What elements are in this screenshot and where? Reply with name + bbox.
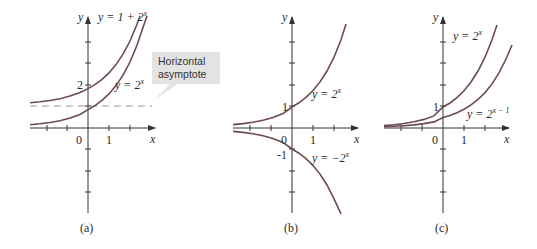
x-axis-label: x	[149, 132, 156, 146]
panel-label-c: (c)	[435, 221, 448, 235]
x-tick-1: 1	[310, 133, 316, 147]
x-tick-0: 0	[76, 133, 82, 147]
curve-2x	[233, 24, 346, 125]
x-tick-1: 1	[106, 133, 112, 147]
y-tick-1: 1	[433, 100, 439, 114]
x-tick-0: 0	[281, 133, 287, 147]
series-label-2x: y = 2x	[114, 77, 144, 92]
y-axis-label: y	[77, 10, 84, 24]
series-label-2x-minus-1: y = 2x − 1	[466, 106, 509, 121]
series-label-2x: y = 2x	[452, 28, 482, 43]
y-axis-label: y	[432, 10, 439, 24]
y-axis-label: y	[281, 10, 288, 24]
series-label-neg-2x: y = −2x	[311, 150, 350, 165]
series-label-1-plus-2x: y = 1 + 2x	[97, 9, 148, 24]
panel-c: y x 0 1 1 y = 2x y = 2x − 1 (c)	[384, 10, 512, 235]
asymptote-callout: Horizontal asymptote	[152, 52, 220, 100]
series-label-2x: y = 2x	[311, 86, 341, 101]
panel-b: y x 0 1 1 -1 y = 2x y = −2x (b)	[233, 10, 360, 235]
callout-line-2: asymptote	[158, 68, 207, 80]
y-tick-neg-1: -1	[277, 148, 287, 162]
callout-line-1: Horizontal	[158, 55, 205, 67]
y-tick-2: 2	[77, 78, 83, 92]
panel-label-a: (a)	[80, 221, 93, 235]
panel-label-b: (b)	[284, 221, 298, 235]
y-tick-1: 1	[282, 100, 288, 114]
curve-neg-2x	[233, 131, 341, 213]
panel-a: y x 0 1 2 y = 1 + 2x y = 2x Horizontal a…	[30, 9, 220, 235]
figure: y x 0 1 2 y = 1 + 2x y = 2x Horizontal a…	[0, 0, 537, 249]
x-axis-label: x	[353, 132, 360, 146]
x-tick-0: 0	[432, 133, 438, 147]
x-tick-1: 1	[461, 133, 467, 147]
x-axis-label: x	[503, 132, 510, 146]
